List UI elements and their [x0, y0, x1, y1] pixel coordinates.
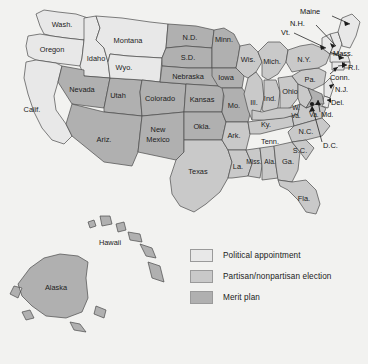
- inset-alaska[interactable]: [10, 254, 106, 332]
- label-kentucky: Ky.: [261, 120, 271, 129]
- label-arkansas: Ark.: [227, 131, 240, 140]
- label-montana: Montana: [114, 36, 144, 45]
- label-idaho: Idaho: [87, 54, 106, 63]
- callout-massachusetts: Mass.: [333, 49, 353, 58]
- legend-swatch-appointment: [190, 249, 213, 262]
- label-utah: Utah: [110, 91, 126, 100]
- label-indiana: Ind.: [264, 94, 276, 103]
- legend-label-merit: Merit plan: [223, 293, 260, 302]
- label-california: Calif.: [24, 105, 41, 114]
- us-judicial-selection-map: Wash. Oregon Idaho Montana Wyo. Nevada C…: [0, 0, 368, 364]
- legend-label-election: Partisan/nonpartisan election: [223, 272, 332, 281]
- label-minnesota: Minn.: [215, 35, 233, 44]
- callout-maine: Maine: [300, 7, 320, 16]
- label-kansas: Kansas: [190, 95, 215, 104]
- label-alaska: Alaska: [45, 283, 68, 292]
- label-new-mexico-line1: New: [151, 125, 166, 134]
- label-wyoming: Wyo.: [116, 63, 133, 72]
- label-new-mexico-line2: Mexico: [146, 135, 169, 144]
- label-south-carolina: S.C.: [293, 146, 307, 155]
- state-maine[interactable]: [338, 14, 360, 48]
- label-wisconsin: Wis.: [241, 55, 255, 64]
- map-svg: Wash. Oregon Idaho Montana Wyo. Nevada C…: [0, 0, 368, 364]
- label-nevada: Nevada: [69, 85, 95, 94]
- label-oklahoma: Okla.: [193, 122, 210, 131]
- callout-maryland: Md.: [321, 110, 333, 119]
- label-oregon: Oregon: [40, 45, 65, 54]
- callout-connecticut: Conn.: [330, 73, 350, 82]
- legend-row-appointment[interactable]: Political appointment: [190, 245, 362, 266]
- inset-hawaii[interactable]: [88, 216, 164, 282]
- label-west-virginia-line2: Va.: [291, 112, 301, 119]
- label-alabama: Ala.: [264, 158, 276, 165]
- label-west-virginia-line1: W.: [292, 104, 300, 111]
- label-new-york: N.Y.: [297, 55, 310, 64]
- callout-rhode-island: R.I.: [348, 63, 360, 72]
- callout-delaware: Del.: [331, 98, 344, 107]
- label-iowa: Iowa: [218, 73, 235, 82]
- label-georgia: Ga.: [282, 157, 294, 166]
- label-michigan: Mich.: [263, 57, 281, 66]
- label-colorado: Colorado: [145, 94, 175, 103]
- label-hawaii: Hawaii: [99, 238, 122, 247]
- label-mississippi: Miss.: [246, 158, 262, 165]
- legend-swatch-merit: [190, 291, 213, 304]
- legend-swatch-election: [190, 270, 213, 283]
- callout-dc: D.C.: [323, 141, 338, 150]
- label-ohio: Ohio: [282, 87, 298, 96]
- label-arizona: Ariz.: [97, 135, 112, 144]
- label-washington: Wash.: [52, 20, 73, 29]
- label-tennessee: Tenn.: [261, 137, 279, 146]
- callout-new-jersey: N.J.: [335, 85, 348, 94]
- callout-new-hampshire: N.H.: [290, 19, 305, 28]
- label-north-carolina: N.C.: [299, 127, 314, 136]
- legend-row-election[interactable]: Partisan/nonpartisan election: [190, 266, 362, 287]
- label-missouri: Mo.: [228, 101, 240, 110]
- dc-marker: [310, 102, 314, 106]
- legend-label-appointment: Political appointment: [223, 251, 301, 260]
- label-pennsylvania: Pa.: [304, 75, 315, 84]
- label-nebraska: Nebraska: [172, 72, 205, 81]
- label-florida: Fla.: [298, 194, 310, 203]
- label-illinois: Ill.: [250, 98, 257, 107]
- label-louisiana: La.: [233, 162, 243, 171]
- map-legend: Political appointment Partisan/nonpartis…: [190, 245, 362, 308]
- label-texas: Texas: [188, 167, 208, 176]
- caption-strip: [0, 353, 368, 364]
- label-south-dakota: S.D.: [181, 53, 195, 62]
- legend-row-merit[interactable]: Merit plan: [190, 287, 362, 308]
- callout-vermont: Vt.: [281, 28, 290, 37]
- label-north-dakota: N.D.: [183, 33, 198, 42]
